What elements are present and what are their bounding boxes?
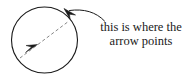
annotation-line-1: this is where the [96,20,186,34]
annotation-label: this is where the arrow points [96,20,186,48]
annotation-line-2: arrow points [96,34,186,48]
dashed-diagonal-line [20,21,69,58]
inner-arrowhead-icon [26,45,38,53]
arrow-points-diagram: this is where the arrow points [0,0,187,78]
